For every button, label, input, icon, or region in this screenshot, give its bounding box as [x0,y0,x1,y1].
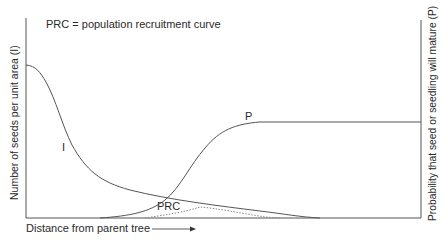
chart-title: PRC = population recruitment curve [46,18,221,30]
curve-label-i: I [62,141,65,153]
y-left-axis-label: Number of seeds per unit area (I) [8,45,20,200]
diagram [0,0,445,244]
curve-i [26,65,320,218]
curve-label-prc: PRC [157,200,180,212]
curve-label-p: P [245,110,252,122]
arrow-head-icon [190,227,196,232]
y-right-axis-label: Probability that seed or seedling will m… [427,6,438,221]
x-axis-label: Distance from parent tree [26,222,150,234]
curve-p [100,122,421,218]
